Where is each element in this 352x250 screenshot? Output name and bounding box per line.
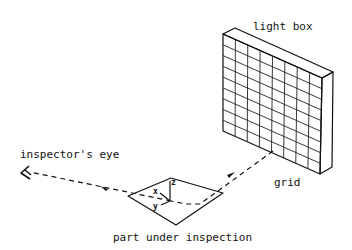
grid-column-line <box>247 45 248 142</box>
inspector-eye-label: inspector's eye <box>20 148 119 161</box>
part-label: part under inspection <box>113 231 252 244</box>
grid-column-line <box>296 67 298 163</box>
grid <box>223 40 322 169</box>
x-axis-label: x <box>153 187 158 196</box>
axis-triad: z x y <box>153 178 176 211</box>
z-axis-label: z <box>171 178 176 187</box>
y-axis-label: y <box>153 202 158 211</box>
light-box-label: light box <box>253 20 313 33</box>
grid-column-line <box>308 73 310 169</box>
arrow-head-icon <box>227 172 235 178</box>
grid-column-line <box>284 62 285 158</box>
light-path-grid-to-part <box>171 151 273 204</box>
light-box-top-face <box>223 28 333 78</box>
grid-column-line <box>259 51 260 148</box>
x-axis-line <box>160 193 170 201</box>
grid-label: grid <box>274 176 301 189</box>
y-axis-line <box>161 201 170 205</box>
grid-column-line <box>272 56 273 153</box>
inspection-diagram: z x y light box grid inspector's eye par… <box>0 0 352 250</box>
light-box <box>223 28 333 174</box>
arrow-head-icon <box>100 186 108 191</box>
eye-icon <box>21 166 31 179</box>
